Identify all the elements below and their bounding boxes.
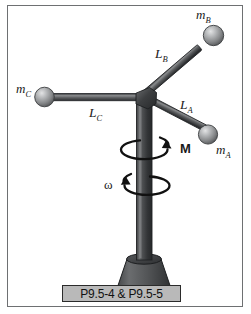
moment-symbol-label: M [180,142,191,155]
mass-a-label: mA [216,143,231,159]
figure-root: mB mC mA LB LA LC M ω P9.5-4 & P9.5-5 [0,0,251,314]
arm-c [48,94,142,101]
mass-c-label: mC [16,82,31,98]
mass-sphere-b [203,25,223,45]
mechanism-diagram [0,0,251,314]
figure-caption-text: P9.5-4 & P9.5-5 [80,287,162,301]
mass-sphere-a [198,125,217,144]
length-b-label: LB [155,47,168,63]
angular-velocity-symbol-label: ω [104,178,113,191]
length-a-label: LA [180,98,193,114]
mass-sphere-c [35,87,55,107]
mass-b-label: mB [196,8,211,24]
length-c-label: LC [89,106,102,122]
figure-caption-box: P9.5-4 & P9.5-5 [62,285,181,302]
vertical-shaft [137,96,153,260]
